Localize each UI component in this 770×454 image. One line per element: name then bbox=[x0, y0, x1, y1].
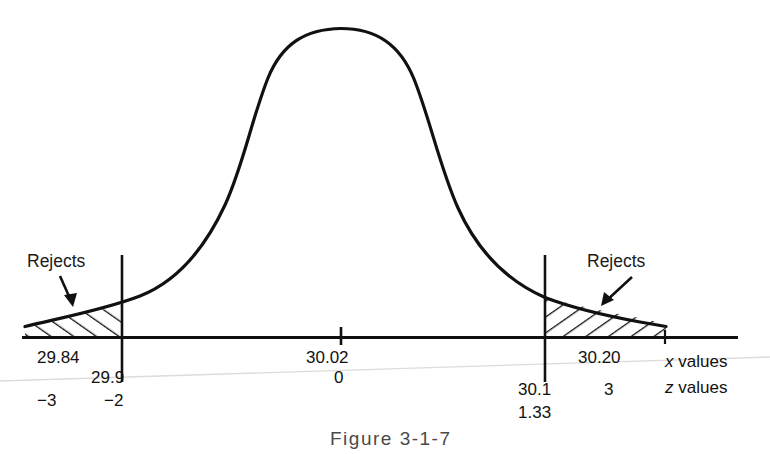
x-label-right-bound: 30.1 bbox=[518, 380, 551, 399]
x-label-center: 30.02 bbox=[306, 348, 349, 367]
x-label-left-bound: 29.9 bbox=[91, 368, 124, 387]
z-values-word: values bbox=[678, 378, 727, 397]
x-values-word: values bbox=[678, 352, 727, 371]
left-arrow-icon bbox=[60, 276, 77, 307]
z-values-axis-label: z values bbox=[665, 378, 727, 397]
x-label-left-outer: 29.84 bbox=[37, 348, 80, 367]
figure-caption: Figure 3-1-7 bbox=[330, 428, 452, 450]
z-label-left-outer: −3 bbox=[37, 391, 56, 410]
reject-label-right: Rejects bbox=[587, 252, 645, 271]
right-arrow-icon bbox=[601, 277, 632, 306]
x-label-right-outer: 30.20 bbox=[578, 348, 621, 367]
reject-label-left: Rejects bbox=[27, 252, 85, 271]
z-label-right-outer: 3 bbox=[604, 380, 613, 399]
z-italic: z bbox=[665, 378, 674, 397]
x-italic: x bbox=[665, 352, 674, 371]
z-label-right-bound: 1.33 bbox=[518, 403, 551, 422]
normal-distribution-figure: Rejects Rejects 29.84 30.02 30.20 x valu… bbox=[0, 0, 770, 454]
x-values-axis-label: x values bbox=[665, 352, 727, 371]
z-label-center: 0 bbox=[334, 368, 343, 387]
z-label-left-bound: −2 bbox=[104, 391, 123, 410]
